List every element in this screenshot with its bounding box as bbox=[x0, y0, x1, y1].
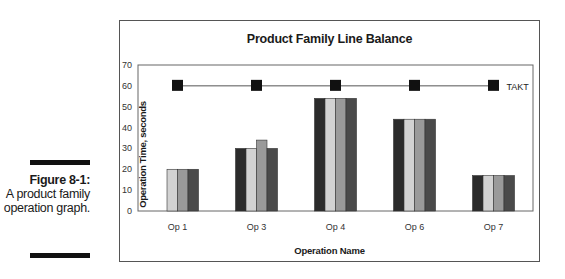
takt-marker bbox=[409, 80, 420, 91]
bar bbox=[315, 98, 326, 211]
takt-marker bbox=[251, 80, 262, 91]
bar bbox=[188, 169, 199, 211]
y-tick-label: 60 bbox=[122, 81, 132, 91]
bar bbox=[504, 176, 515, 211]
bar bbox=[325, 98, 336, 211]
y-tick-label: 20 bbox=[122, 164, 132, 174]
y-tick-label: 0 bbox=[127, 206, 132, 216]
y-tick-label: 30 bbox=[122, 143, 132, 153]
y-tick-label: 10 bbox=[122, 185, 132, 195]
x-tick-label: Op 4 bbox=[326, 222, 346, 232]
bar bbox=[167, 169, 178, 211]
bar bbox=[425, 119, 436, 211]
bar bbox=[494, 176, 505, 211]
bar bbox=[415, 119, 426, 211]
figure-description: A product family operation graph. bbox=[0, 187, 90, 215]
takt-marker bbox=[172, 80, 183, 91]
y-tick-label: 50 bbox=[122, 102, 132, 112]
bar bbox=[246, 148, 257, 211]
x-tick-label: Op 1 bbox=[168, 222, 188, 232]
x-tick-label: Op 7 bbox=[484, 222, 504, 232]
takt-marker bbox=[330, 80, 341, 91]
plot-area: 010203040506070Op 1Op 3Op 4Op 6Op 7TAKT bbox=[120, 21, 541, 263]
bar bbox=[178, 169, 189, 211]
y-tick-label: 70 bbox=[122, 60, 132, 70]
chart-frame: Product Family Line Balance Operation Ti… bbox=[119, 20, 540, 262]
caption-rule-bottom bbox=[30, 253, 90, 258]
bar bbox=[346, 98, 357, 211]
caption-rule-top bbox=[30, 160, 90, 165]
bar bbox=[394, 119, 405, 211]
bar bbox=[267, 148, 278, 211]
bar bbox=[473, 176, 484, 211]
bar bbox=[483, 176, 494, 211]
bar bbox=[336, 98, 347, 211]
x-tick-label: Op 6 bbox=[405, 222, 425, 232]
legend-takt-label: TAKT bbox=[507, 82, 530, 92]
figure-number: Figure 8-1: bbox=[0, 173, 90, 187]
bar bbox=[404, 119, 415, 211]
figure-caption: Figure 8-1: A product family operation g… bbox=[0, 173, 90, 215]
bar bbox=[257, 140, 268, 211]
x-tick-label: Op 3 bbox=[247, 222, 267, 232]
bar bbox=[236, 148, 247, 211]
takt-marker bbox=[488, 80, 499, 91]
y-tick-label: 40 bbox=[122, 123, 132, 133]
